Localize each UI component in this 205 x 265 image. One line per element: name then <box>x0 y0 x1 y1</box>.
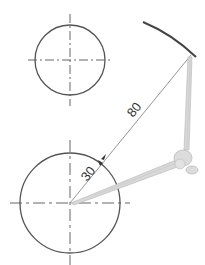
compass-pencil-detail <box>95 163 176 195</box>
compass-knob <box>175 159 185 169</box>
dimension-arrow-30 <box>101 154 106 160</box>
construction-drawing: 80 30 <box>0 0 205 265</box>
dimension-label-30: 30 <box>78 163 99 184</box>
radius-80-arc <box>143 22 196 57</box>
compass-handle <box>186 166 198 174</box>
dimension-label-80: 80 <box>124 99 145 120</box>
top-circle-group <box>28 14 113 106</box>
compass-needle-leg <box>184 57 192 150</box>
